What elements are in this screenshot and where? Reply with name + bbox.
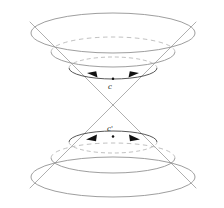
lower-curve-point: [112, 135, 115, 138]
lower-curve-front: [69, 142, 157, 153]
lower-ellipse-outer-front: [31, 177, 195, 197]
upper-ellipse-middle: [51, 37, 175, 67]
upper-ellipse-outer: [31, 13, 195, 53]
lower-ellipse-middle: [51, 143, 175, 173]
lower-closed-timelike-curve: [69, 131, 157, 153]
light-cone-figure: c c': [0, 0, 224, 208]
upper-curve-point: [112, 78, 115, 81]
upper-curve-label: c: [108, 83, 112, 91]
lower-curve-label: c': [107, 125, 113, 133]
upper-curve-arrowheads: [87, 71, 139, 77]
upper-ellipse-outer-back: [31, 13, 195, 33]
upper-ellipse-outer-front: [31, 33, 195, 53]
upper-curve-left-arrowhead: [87, 71, 98, 77]
upper-curve-back: [69, 57, 157, 68]
upper-curve-right-arrowhead: [129, 71, 140, 77]
upper-closed-timelike-curve: [69, 57, 157, 79]
light-cone-diagram: c c': [0, 0, 224, 208]
lower-ellipse-outer-back: [31, 157, 195, 177]
lower-curve-right-arrowhead: [129, 135, 140, 142]
lower-curve-left-arrowhead: [86, 135, 97, 142]
lower-ellipse-middle-back: [51, 143, 175, 158]
lower-ellipse-outer: [31, 157, 195, 197]
upper-curve-front: [69, 68, 157, 79]
upper-ellipse-middle-front: [51, 52, 175, 67]
